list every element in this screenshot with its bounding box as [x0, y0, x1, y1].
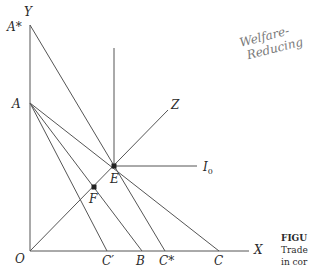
line-a-c: [30, 103, 219, 251]
point-e: [112, 164, 117, 169]
point-f: [92, 185, 97, 190]
origin-label: O: [15, 253, 25, 265]
z-label: Z: [171, 99, 179, 111]
e-label: E: [110, 173, 119, 185]
c-prime-label: C′: [102, 255, 114, 267]
c-label: C: [214, 255, 223, 267]
line-a-c-prime: [30, 103, 107, 251]
f-label: F: [89, 193, 97, 205]
figure-caption: FIGU Trade in cor: [281, 232, 308, 268]
line-a-star-c-star: [30, 25, 165, 251]
caption-line-2: in cor: [281, 256, 308, 268]
caption-title: FIGU: [281, 233, 307, 243]
a-label: A: [12, 98, 21, 110]
x-axis-label: X: [254, 244, 263, 256]
i0-label: I0: [203, 161, 213, 176]
y-axis-label: Y: [24, 6, 32, 18]
a-star-label: A*: [7, 21, 22, 33]
c-star-label: C*: [159, 255, 174, 267]
caption-line-1: Trade: [281, 244, 308, 256]
i0-label-sub: 0: [208, 167, 213, 176]
b-label: B: [136, 255, 145, 267]
